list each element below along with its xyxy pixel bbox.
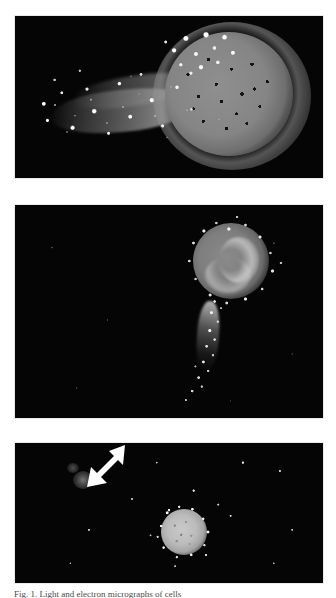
panel-3-dim-object-small bbox=[67, 463, 79, 473]
panel-2-background-field bbox=[15, 205, 323, 418]
panel-2-bright-crescent bbox=[219, 237, 259, 283]
figure-container: Large granular gray disc at right with b… bbox=[0, 0, 336, 598]
figure-caption: Fig. 1. Light and electron micrographs o… bbox=[14, 589, 334, 598]
panel-1-dust-field bbox=[35, 60, 235, 150]
panel-2-cell-speckles bbox=[181, 213, 285, 313]
panel-1-halo bbox=[153, 22, 311, 170]
panel-1-tail-body bbox=[49, 84, 192, 138]
micrograph-panel-1[interactable]: Large granular gray disc at right with b… bbox=[15, 16, 323, 178]
panel-3-speck-field bbox=[15, 443, 323, 583]
panel-1-main-disc bbox=[165, 32, 293, 156]
panel-1-disc-granules bbox=[165, 32, 293, 156]
panel-2-crescent-lower bbox=[205, 257, 251, 293]
panel-2-streak-particles bbox=[165, 297, 245, 409]
panel-3-cell-texture bbox=[161, 509, 207, 555]
panel-3-cell-rim-speckles bbox=[154, 502, 214, 562]
micrograph-panel-2[interactable]: Small round cell in the upper right with… bbox=[15, 205, 323, 418]
panel-2-canvas bbox=[15, 205, 323, 418]
panel-2-main-cell bbox=[193, 223, 269, 299]
panel-2-streak bbox=[195, 300, 222, 371]
panel-1-tail-speckles bbox=[33, 56, 213, 148]
panel-1-bright-cluster bbox=[159, 24, 243, 84]
arrow-icon bbox=[81, 443, 127, 489]
panel-3-canvas bbox=[15, 443, 323, 583]
panel-1-canvas bbox=[15, 16, 323, 178]
panel-3-main-cell bbox=[161, 509, 207, 555]
micrograph-panel-3[interactable]: Bright granular round cell at center-rig… bbox=[15, 443, 323, 583]
panel-1-tail-secondary bbox=[71, 67, 194, 115]
